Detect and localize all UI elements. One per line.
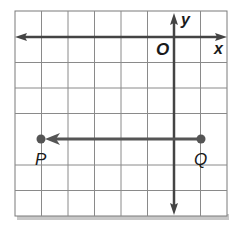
point-p	[37, 135, 46, 144]
point-p-label: P	[35, 150, 47, 169]
origin-label: O	[156, 40, 169, 59]
coordinate-plane-figure: y x O P Q	[0, 0, 229, 226]
y-axis-label: y	[180, 11, 191, 28]
point-q-label: Q	[194, 150, 207, 169]
x-axis-label: x	[213, 40, 224, 57]
point-q	[197, 135, 206, 144]
